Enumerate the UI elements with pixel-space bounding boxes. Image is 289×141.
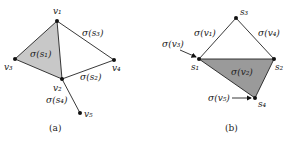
- label-face-v2: σ(v₂): [231, 67, 253, 77]
- label-face-s1: σ(s₁): [30, 49, 52, 59]
- diagram-canvas: v₁ v₂ v₃ v₄ v₅ σ(s₁) σ(s₃) σ(s₂) σ(s₄) (…: [0, 0, 289, 141]
- caption-a: (a): [49, 123, 61, 133]
- caption-b: (b): [225, 123, 238, 133]
- vertex-s2: [272, 57, 276, 61]
- vertex-s3: [234, 16, 238, 20]
- vertex-v4: [112, 58, 116, 62]
- label-v4: v₄: [112, 63, 121, 73]
- label-s1: s₁: [191, 62, 199, 72]
- vertex-v1: [55, 19, 59, 23]
- arrow-sigma-v3: [180, 50, 196, 57]
- label-arrow-v5: σ(v₅): [208, 93, 230, 103]
- vertex-s4: [253, 96, 257, 100]
- label-s3: s₃: [240, 7, 249, 17]
- label-edge-v1: σ(v₁): [194, 28, 216, 38]
- label-s2: s₂: [275, 62, 284, 72]
- edge-v1-v4: [57, 21, 114, 60]
- vertex-s1: [197, 57, 201, 61]
- vertex-v3: [13, 57, 17, 61]
- label-arrow-v3: σ(v₃): [162, 39, 184, 49]
- label-edge-v4: σ(v₄): [258, 28, 280, 38]
- vertex-v5: [78, 111, 82, 115]
- label-v5: v₅: [84, 109, 93, 119]
- panel-a: v₁ v₂ v₃ v₄ v₅ σ(s₁) σ(s₃) σ(s₂) σ(s₄) (…: [4, 6, 121, 133]
- label-edge-s3: σ(s₃): [82, 28, 104, 38]
- edge-s1-s3: [199, 18, 236, 59]
- label-edge-s4: σ(s₄): [46, 95, 68, 105]
- label-v1: v₁: [53, 6, 62, 16]
- edge-s3-s2: [236, 18, 274, 59]
- label-v2: v₂: [53, 83, 62, 93]
- panel-b: s₁ s₂ s₃ s₄ σ(v₁) σ(v₄) σ(v₂) σ(v₃) σ(v₅…: [162, 7, 284, 133]
- vertex-v2: [60, 77, 64, 81]
- label-s4: s₄: [258, 99, 267, 109]
- label-v3: v₃: [4, 62, 13, 72]
- label-edge-s2: σ(s₂): [80, 72, 102, 82]
